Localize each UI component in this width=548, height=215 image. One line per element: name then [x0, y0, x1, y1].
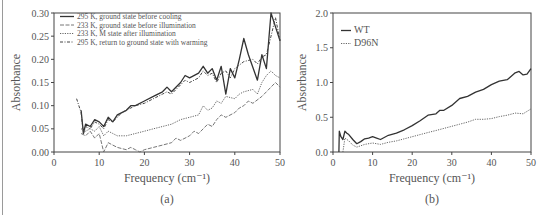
x-axis: 01020304050: [52, 152, 286, 168]
x-tick-label: 10: [368, 157, 378, 168]
y-tick-label: 2.0: [316, 8, 329, 19]
x-axis-title: Frequency (cm⁻¹): [389, 171, 475, 185]
x-tick-label: 40: [486, 157, 496, 168]
series-line-233-k-m-state-after-illumination: [81, 71, 280, 136]
y-tick-label: 0.5: [316, 112, 329, 123]
x-tick-label: 40: [230, 157, 240, 168]
x-tick-label: 10: [94, 157, 104, 168]
y-tick-label: 0.25: [32, 31, 50, 42]
series-line-wt: [339, 69, 531, 152]
panel-label: (a): [160, 192, 173, 206]
y-tick-label: 0.30: [32, 8, 50, 19]
x-tick-label: 0: [52, 157, 57, 168]
y-tick-label: 0.00: [32, 147, 50, 158]
x-tick-label: 50: [526, 157, 536, 168]
legend-label: D96N: [354, 37, 378, 48]
legend-label: 295 K, return to ground state with warmi…: [77, 38, 208, 47]
chart-panel-a: 0.000.050.100.150.200.250.3001020304050F…: [9, 8, 285, 207]
figure-canvas: 0.000.050.100.150.200.250.3001020304050F…: [0, 0, 548, 215]
chart-panel-b: 0.00.51.01.52.001020304050Frequency (cm⁻…: [295, 8, 536, 207]
series-line-233-k-ground-state-before-illumination: [81, 83, 280, 153]
x-tick-label: 20: [139, 157, 149, 168]
x-tick-label: 30: [447, 157, 457, 168]
legend-label: WT: [354, 24, 370, 35]
y-tick-label: 0.05: [32, 123, 50, 134]
y-axis-title: Absorbance: [9, 54, 23, 111]
y-tick-label: 1.0: [316, 77, 329, 88]
legend: WTD96N: [341, 24, 378, 48]
x-tick-label: 50: [275, 157, 285, 168]
y-tick-label: 0.15: [32, 77, 50, 88]
y-tick-label: 0.0: [316, 147, 329, 158]
y-tick-label: 1.5: [316, 42, 329, 53]
x-tick-label: 20: [407, 157, 417, 168]
y-axis-title: Absorbance: [295, 54, 309, 111]
legend: 295 K, ground state before cooling233 K,…: [60, 12, 208, 47]
y-tick-label: 0.10: [32, 100, 50, 111]
x-axis-title: Frequency (cm⁻¹): [124, 171, 210, 185]
x-axis: 01020304050: [331, 152, 537, 168]
y-tick-label: 0.20: [32, 54, 50, 65]
y-axis: 0.000.050.100.150.200.250.30: [32, 8, 55, 158]
y-axis: 0.00.51.01.52.0: [316, 8, 334, 158]
x-tick-label: 0: [331, 157, 336, 168]
series-line-d96n: [343, 109, 531, 152]
panel-label: (b): [425, 192, 439, 206]
x-tick-label: 30: [185, 157, 195, 168]
